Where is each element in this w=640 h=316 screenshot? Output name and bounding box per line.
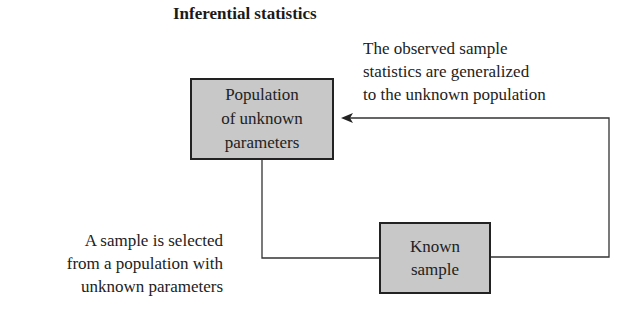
selection-note-line-3: unknown parameters — [30, 275, 223, 298]
selection-note-line-1: A sample is selected — [30, 229, 223, 252]
known-sample-box: Known sample — [379, 222, 491, 294]
selection-note: A sample is selected from a population w… — [30, 229, 223, 298]
population-box: Population of unknown parameters — [190, 78, 334, 160]
generalization-note-line-3: to the unknown population — [363, 83, 546, 106]
population-line-2: of unknown — [221, 107, 303, 131]
population-line-1: Population — [225, 83, 299, 107]
sample-line-1: Known — [410, 235, 460, 258]
selection-connector — [262, 160, 379, 258]
population-line-3: parameters — [225, 131, 300, 155]
diagram-title: Inferential statistics — [173, 4, 317, 24]
sample-line-2: sample — [411, 258, 459, 281]
generalization-note: The observed sample statistics are gener… — [363, 37, 546, 106]
selection-note-line-2: from a population with — [30, 252, 223, 275]
generalization-note-line-1: The observed sample — [363, 37, 546, 60]
generalization-note-line-2: statistics are generalized — [363, 60, 546, 83]
